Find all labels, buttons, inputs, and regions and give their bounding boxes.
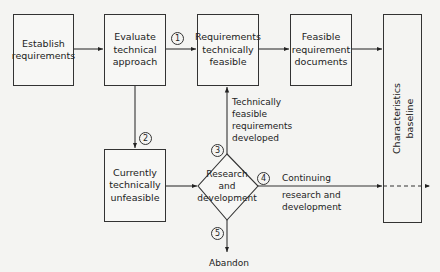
developed-line1: Technically: [232, 96, 292, 108]
establish-requirements-label: Establish requirements: [12, 38, 76, 63]
technically-feasible-developed-label: Technically feasible requirements develo…: [232, 96, 292, 144]
abandon-label: Abandon: [209, 257, 249, 269]
continuing-label-bottom: research and development: [282, 189, 341, 213]
developed-line2: feasible: [232, 108, 292, 120]
baseline-line2: baseline: [403, 64, 416, 174]
currently-technically-unfeasible-label: Currently technically unfeasible: [105, 167, 165, 205]
continuing-line3: development: [282, 201, 341, 213]
continuing-label-top: Continuing: [282, 172, 331, 184]
continuing-line2: research and: [282, 189, 341, 201]
establish-requirements-box: Establish requirements: [13, 14, 74, 86]
requirements-technically-feasible-box: Requirements technically feasible: [197, 14, 259, 86]
marker-5: 5: [211, 227, 224, 240]
evaluate-technical-approach-box: Evaluate technical approach: [104, 14, 166, 86]
developed-line3: requirements: [232, 120, 292, 132]
marker-2: 2: [139, 132, 152, 145]
feasible-requirement-documents-box: Feasible requirement documents: [290, 14, 352, 86]
feasible-requirement-documents-label: Feasible requirement documents: [291, 31, 351, 69]
decision-research-development: Research and development: [196, 168, 258, 204]
marker-3: 3: [211, 144, 224, 157]
characteristics-baseline-label: Characteristics baseline: [390, 64, 415, 174]
decision-line1: Research: [196, 168, 258, 180]
currently-technically-unfeasible-box: Currently technically unfeasible: [104, 149, 166, 222]
requirements-technically-feasible-label: Requirements technically feasible: [195, 31, 261, 69]
evaluate-technical-approach-label: Evaluate technical approach: [111, 31, 159, 69]
characteristics-baseline-box: Characteristics baseline: [383, 14, 422, 223]
decision-line3: development: [196, 192, 258, 204]
developed-line4: developed: [232, 132, 292, 144]
baseline-line1: Characteristics: [390, 64, 403, 174]
decision-line2: and: [196, 180, 258, 192]
marker-1: 1: [171, 32, 184, 45]
marker-4: 4: [257, 172, 270, 185]
